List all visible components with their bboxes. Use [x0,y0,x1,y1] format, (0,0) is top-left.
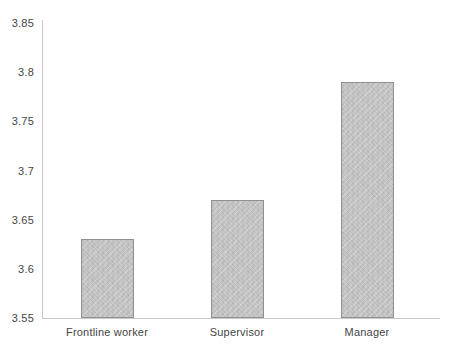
y-tick-label: 3.65 [0,214,34,225]
y-tick-label: 3.75 [0,116,34,127]
y-tick-label: 3.8 [0,67,34,78]
y-tick-label: 3.55 [0,313,34,324]
x-axis-line [42,318,440,319]
y-axis-line [42,20,43,319]
bar-chart: 3.553.63.653.73.753.83.85 Frontline work… [0,0,451,354]
category-label-frontline-worker: Frontline worker [37,326,177,338]
y-tick-label: 3.85 [0,18,34,29]
y-tick-label: 3.7 [0,165,34,176]
y-tick-label: 3.6 [0,263,34,274]
bar-manager [341,82,394,318]
bar-frontline-worker [81,239,134,318]
category-label-manager: Manager [297,326,437,338]
bar-supervisor [211,200,264,318]
category-label-supervisor: Supervisor [167,326,307,338]
